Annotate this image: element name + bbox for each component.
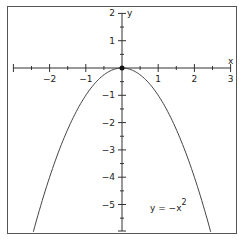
y-tick-label: 1 [109, 36, 115, 46]
plot-area: −2−112321−1−2−3−4−5 x y y = −x2 [0, 0, 244, 240]
x-tick-label: −1 [79, 74, 92, 84]
x-tick-label: 3 [228, 74, 234, 84]
x-axis-label: x [228, 56, 234, 66]
x-tick-label: −2 [43, 74, 56, 84]
y-tick-label: −5 [102, 200, 115, 210]
y-tick-label: −1 [102, 90, 115, 100]
y-axis-label: y [127, 8, 133, 18]
y-tick-label: −4 [102, 172, 116, 182]
x-tick-label: 1 [155, 74, 161, 84]
x-tick-label: 2 [192, 74, 198, 84]
y-tick-label: −3 [102, 145, 115, 155]
vertex-point [120, 66, 125, 71]
y-tick-label: −2 [102, 118, 115, 128]
y-tick-label: 2 [109, 8, 115, 18]
